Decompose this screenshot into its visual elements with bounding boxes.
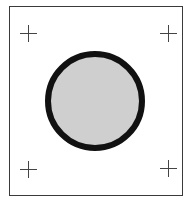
circle-diagram bbox=[0, 0, 192, 202]
gray-disc bbox=[48, 54, 142, 148]
